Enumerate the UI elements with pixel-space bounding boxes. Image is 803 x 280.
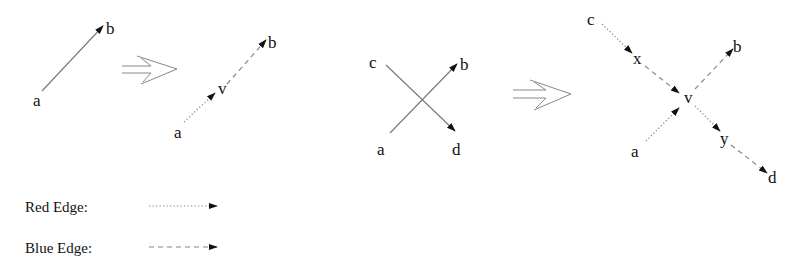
transformation-diagram: abavbcbadcxvbayd Red Edge:Blue Edge: — [0, 0, 803, 280]
node-label-v: v — [684, 88, 693, 107]
node-label-d: d — [768, 168, 777, 187]
panel-single-edge-before: ab — [33, 19, 115, 110]
node-label-c: c — [587, 10, 595, 29]
edge-v-b-blue — [227, 40, 266, 84]
node-label-b: b — [106, 19, 115, 38]
node-label-v: v — [218, 79, 227, 98]
edge-x-v-blue — [645, 66, 679, 93]
node-label-a: a — [174, 123, 182, 142]
legend-label: Blue Edge: — [25, 240, 92, 256]
node-label-c: c — [369, 53, 377, 72]
node-label-x: x — [633, 49, 642, 68]
implies-arrow-icon — [122, 56, 177, 84]
node-label-a: a — [33, 91, 41, 110]
implication-arrows — [122, 56, 571, 110]
node-label-b: b — [268, 33, 277, 52]
edge-v-b-blue — [695, 49, 733, 89]
node-label-a: a — [631, 142, 639, 161]
diagram-panels: abavbcbadcxvbayd — [33, 10, 777, 187]
node-label-b: b — [733, 37, 742, 56]
legend-label: Red Edge: — [25, 199, 88, 215]
implies-arrow-icon — [513, 80, 571, 110]
legend: Red Edge:Blue Edge: — [25, 199, 217, 256]
panel-single-edge-after: avb — [174, 33, 277, 142]
edge-v-y-red — [695, 106, 720, 131]
edge-c-x-red — [602, 24, 632, 53]
panel-crossing-before: cbad — [369, 53, 469, 159]
edge-y-d-blue — [731, 145, 767, 173]
edge-c-d — [386, 65, 455, 131]
edge-a-v-red — [646, 108, 679, 141]
edge-a-b — [42, 26, 103, 91]
edge-a-v-red — [184, 93, 215, 122]
legend-item-blue-edge: Blue Edge: — [25, 240, 217, 256]
node-label-d: d — [452, 140, 461, 159]
legend-item-red-edge: Red Edge: — [25, 199, 217, 215]
node-label-b: b — [460, 55, 469, 74]
node-label-a: a — [377, 140, 385, 159]
node-label-y: y — [720, 129, 729, 148]
panel-crossing-after: cxvbayd — [587, 10, 777, 187]
